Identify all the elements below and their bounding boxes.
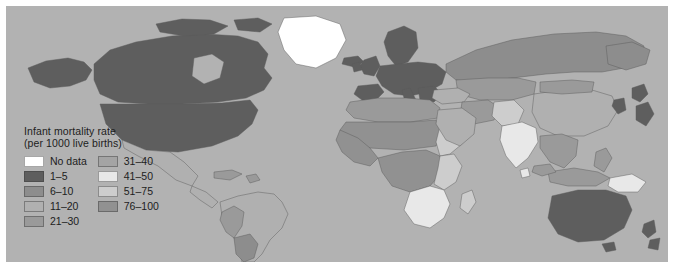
legend-swatch-76-100 bbox=[98, 201, 118, 212]
legend-title-line1: Infant mortality rate bbox=[24, 125, 202, 137]
legend-item-76-100: 76–100 bbox=[98, 200, 159, 213]
region-south-america bbox=[220, 192, 288, 262]
legend-item-31-40: 31–40 bbox=[98, 155, 159, 168]
legend-swatch-41-50 bbox=[98, 171, 118, 182]
legend-swatch-6-10 bbox=[24, 186, 44, 197]
legend-item-51-75: 51–75 bbox=[98, 185, 159, 198]
legend-swatch-11-20 bbox=[24, 201, 44, 212]
legend-label-no-data: No data bbox=[50, 155, 87, 167]
legend-columns: No data 1–5 6–10 11–20 21–30 bbox=[24, 155, 202, 228]
legend-swatch-51-75 bbox=[98, 186, 118, 197]
legend-swatch-no-data bbox=[24, 156, 44, 167]
legend-label-11-20: 11–20 bbox=[50, 200, 78, 212]
legend-item-no-data: No data bbox=[24, 155, 87, 168]
legend-label-1-5: 1–5 bbox=[50, 170, 68, 182]
legend-swatch-31-40 bbox=[98, 156, 118, 167]
legend-title-line2: (per 1000 live births) bbox=[24, 137, 202, 149]
legend-label-76-100: 76–100 bbox=[124, 200, 159, 212]
figure-root: .ld{stroke:#5a5a5a;stroke-width:.45;stro… bbox=[0, 0, 675, 274]
legend-label-21-30: 21–30 bbox=[50, 215, 79, 227]
legend-label-6-10: 6–10 bbox=[50, 185, 73, 197]
region-europe bbox=[352, 26, 446, 106]
legend-column-right: 31–40 41–50 51–75 76–100 bbox=[98, 155, 159, 228]
legend-label-51-75: 51–75 bbox=[124, 185, 153, 197]
legend-label-31-40: 31–40 bbox=[124, 155, 153, 167]
legend-item-21-30: 21–30 bbox=[24, 215, 87, 228]
legend-item-11-20: 11–20 bbox=[24, 200, 87, 213]
legend-swatch-21-30 bbox=[24, 216, 44, 227]
legend-swatch-1-5 bbox=[24, 171, 44, 182]
legend-item-41-50: 41–50 bbox=[98, 170, 159, 183]
region-oceania bbox=[532, 164, 660, 252]
map-legend: Infant mortality rate (per 1000 live bir… bbox=[24, 125, 202, 228]
legend-column-left: No data 1–5 6–10 11–20 21–30 bbox=[24, 155, 87, 228]
legend-item-1-5: 1–5 bbox=[24, 170, 87, 183]
region-asia bbox=[432, 32, 654, 178]
legend-item-6-10: 6–10 bbox=[24, 185, 87, 198]
legend-label-41-50: 41–50 bbox=[124, 170, 153, 182]
